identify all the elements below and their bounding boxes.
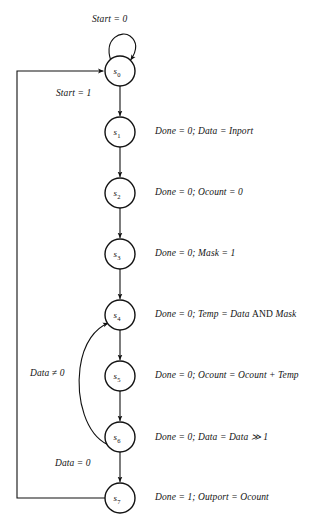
edge-label-start-1: Start = 1 bbox=[56, 88, 91, 98]
action-label-s4: Done = 0; Temp = Data AND Mask bbox=[155, 309, 296, 319]
edge-label-data-ne-0: Data ≠ 0 bbox=[30, 368, 65, 378]
action-label-s3: Done = 0; Mask = 1 bbox=[155, 248, 235, 258]
transition-s6-to-s4 bbox=[79, 323, 108, 444]
action-label-s1: Done = 0; Data = Inport bbox=[155, 126, 253, 136]
action-label-s2: Done = 0; Ocount = 0 bbox=[155, 187, 243, 197]
action-label-s4-part-2: Mask bbox=[273, 309, 296, 319]
action-label-s6: Done = 0; Data = Data ≫ 1 bbox=[155, 431, 268, 442]
action-label-s5: Done = 0; Ocount = Ocount + Temp bbox=[155, 370, 299, 380]
edge-label-data-eq-0: Data = 0 bbox=[55, 458, 91, 468]
action-label-s4-part-1: Done = 0; Temp = Data bbox=[155, 309, 252, 319]
state-diagram-page: s0 s1 s2 s3 s4 s5 s6 s7 Start = 0 Start … bbox=[0, 0, 327, 531]
edge-label-start-0: Start = 0 bbox=[92, 14, 127, 24]
action-label-s7: Done = 1; Outport = Ocount bbox=[155, 492, 269, 502]
action-label-s4-operator: AND bbox=[252, 309, 273, 319]
transition-s7-to-s0 bbox=[17, 71, 105, 498]
state-diagram-canvas: s0 s1 s2 s3 s4 s5 s6 s7 bbox=[0, 0, 327, 531]
